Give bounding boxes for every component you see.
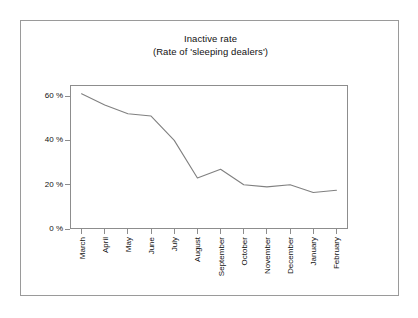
x-axis-tick-mark [151, 229, 152, 234]
x-axis-tick-label-text: September [216, 237, 225, 276]
x-axis-tick-label-text: March [77, 237, 86, 259]
chart-title-line-1: Inactive rate [21, 32, 400, 45]
x-axis-tick-label-text: April [100, 237, 109, 253]
x-axis-tick-mark [336, 229, 337, 234]
x-axis-tick-label-text: July [170, 237, 179, 251]
x-axis-tick-mark [127, 229, 128, 234]
x-axis-tick-mark [243, 229, 244, 234]
x-axis-tick-mark [220, 229, 221, 234]
x-axis-tick-label-text: January [309, 237, 318, 265]
y-axis-tick-mark [65, 184, 70, 185]
x-axis-tick-label-text: May [123, 237, 132, 252]
chart-title-line-2: (Rate of 'sleeping dealers') [21, 45, 400, 58]
x-axis-tick-mark [313, 229, 314, 234]
x-axis-tick-label-text: November [262, 237, 271, 274]
x-axis-tick-mark [197, 229, 198, 234]
x-axis-tick-mark [290, 229, 291, 234]
y-axis-tick-label: 60 % [45, 90, 63, 101]
y-axis-tick-label: 40 % [45, 134, 63, 145]
line-series-inactive-rate [70, 85, 348, 229]
plot-area: 0 %20 %40 %60 % MarchAprilMayJuneJulyAug… [70, 85, 348, 229]
y-axis-tick-mark [65, 96, 70, 97]
y-axis-tick-mark [65, 140, 70, 141]
x-axis-tick-mark [104, 229, 105, 234]
chart-title: Inactive rate (Rate of 'sleeping dealers… [21, 32, 400, 58]
figure-panel: Inactive rate (Rate of 'sleeping dealers… [20, 20, 399, 296]
x-axis-tick-mark [81, 229, 82, 234]
x-axis-tick-label-text: August [193, 237, 202, 262]
y-axis-tick-label: 20 % [45, 179, 63, 190]
x-axis-tick-label-text: June [147, 237, 156, 254]
x-axis-tick-mark [266, 229, 267, 234]
x-axis-tick-label-text: February [332, 237, 341, 269]
x-axis-tick-label-text: October [239, 237, 248, 265]
x-axis-tick-label-text: December [286, 237, 295, 274]
y-axis-tick-mark [65, 229, 70, 230]
x-axis-tick-mark [174, 229, 175, 234]
y-axis-tick-label: 0 % [49, 223, 63, 234]
